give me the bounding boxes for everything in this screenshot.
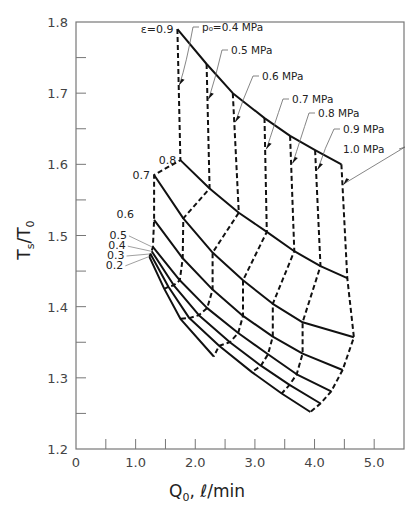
label-leader: [127, 254, 150, 256]
y-tick-label: 1.7: [47, 86, 68, 101]
pressure-label: 0.7 MPa: [292, 93, 333, 105]
pressure-label: 0.9 MPa: [343, 123, 384, 135]
arrowhead-icon: [343, 178, 349, 185]
y-tick-label: 1.5: [47, 229, 68, 244]
arrowhead-icon: [208, 93, 214, 100]
epsilon-label: 0.6: [117, 208, 135, 221]
x-tick-label: 4.0: [304, 455, 325, 470]
pressure-isoline: [282, 150, 321, 393]
pressure-label: 0.6 MPa: [262, 70, 303, 82]
pressure-isoline: [164, 64, 209, 289]
x-tick-label: 2.0: [185, 455, 206, 470]
pressure-isoline: [149, 29, 180, 257]
y-tick-label: 1.3: [47, 371, 68, 386]
x-tick-label: 3.0: [245, 455, 266, 470]
leader-line: [318, 129, 340, 169]
epsilon-curve: [154, 175, 354, 337]
chart-canvas: 01.02.03.04.05.01.21.31.41.51.61.71.8 0.…: [0, 0, 414, 513]
leader-line: [209, 50, 228, 99]
x-axis-title: Q0, ℓ/min: [169, 481, 245, 504]
y-tick-label: 1.6: [47, 157, 68, 172]
x-tick-label: 1.0: [125, 455, 146, 470]
epsilon-label: 0.8: [159, 154, 177, 167]
arrowhead-icon: [266, 143, 272, 150]
epsilon-curves: [149, 29, 354, 412]
epsilon-label: 0.2: [106, 259, 124, 272]
x-tick-label: 5.0: [364, 455, 385, 470]
pressure-label: p₀=0.4 MPa: [202, 21, 263, 33]
epsilon-curve: [151, 254, 311, 412]
y-tick-label: 1.8: [47, 15, 68, 30]
label-leader: [129, 236, 152, 247]
leader-line: [293, 113, 315, 163]
curve-labels: 0.80.70.60.50.40.30.2: [106, 154, 177, 272]
arrowhead-icon: [317, 163, 323, 170]
arrowhead-icon: [292, 157, 298, 164]
x-tick-label: 0: [72, 455, 80, 470]
epsilon-0.9-label: ε=0.9: [141, 23, 174, 36]
label-leader: [125, 257, 148, 266]
leader-line: [267, 99, 289, 149]
epsilon-curve: [180, 160, 347, 278]
arrowhead-icon: [235, 116, 241, 123]
y-tick-label: 1.4: [47, 300, 68, 315]
y-tick-label: 1.2: [47, 442, 68, 457]
pressure-label: 0.5 MPa: [231, 44, 272, 56]
pressure-label: 1.0 MPa: [343, 143, 384, 155]
label-leader: [128, 246, 151, 251]
pressure-label: 0.8 MPa: [318, 107, 359, 119]
epsilon-label: 0.7: [133, 169, 151, 182]
y-axis-title: Ts/T0: [14, 220, 37, 260]
tick-labels: 01.02.03.04.05.01.21.31.41.51.61.71.8: [47, 15, 384, 470]
